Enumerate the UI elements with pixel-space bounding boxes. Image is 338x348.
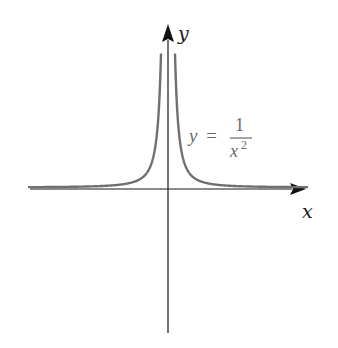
equation-lhs: y = <box>187 125 217 146</box>
equation-numerator: 1 <box>235 115 244 135</box>
x-axis-arrow-icon <box>290 183 306 195</box>
y-axis-arrow-icon <box>162 24 174 42</box>
curve-left-branch <box>28 54 161 188</box>
x-axis-label: x <box>302 200 313 222</box>
y-axis-label: y <box>177 22 189 44</box>
equation-label: y = 1 x 2 <box>187 115 252 161</box>
equation-denominator: x <box>229 141 238 161</box>
equation-exponent: 2 <box>241 138 247 152</box>
function-graph: y x y = 1 x 2 <box>0 0 338 348</box>
